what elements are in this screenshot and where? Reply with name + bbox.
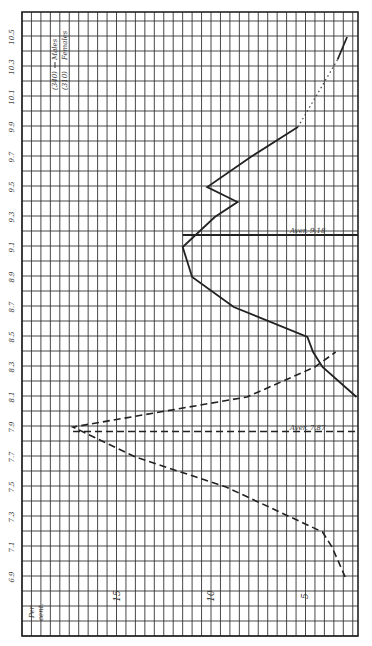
axis-label-per: Per <box>28 605 36 619</box>
legend-females-label: Females <box>61 30 69 61</box>
age-tick-label: 6.9 <box>8 571 16 583</box>
ytick-15: 15 <box>112 590 122 602</box>
females-average-label: Aver. 7.87 <box>289 424 326 432</box>
males-series-line <box>183 127 357 397</box>
ytick-10: 10 <box>206 590 216 602</box>
males-series-dotted-segment <box>298 60 338 128</box>
age-tick-label: 10.3 <box>8 59 16 75</box>
age-tick-label: 8.5 <box>8 331 16 343</box>
age-tick-label: 8.7 <box>8 301 16 313</box>
age-tick-label: 8.3 <box>8 361 16 373</box>
age-tick-label: 8.1 <box>8 391 16 402</box>
age-tick-label: 7.5 <box>8 481 16 493</box>
legend-males-count: (340) <box>51 71 59 90</box>
axis-label-cent: cent. <box>37 603 45 621</box>
age-tick-label: 7.1 <box>8 541 16 552</box>
age-tick-label: 7.7 <box>8 451 16 463</box>
age-tick-label: 8.9 <box>8 271 16 283</box>
age-tick-label: 7.9 <box>8 421 16 433</box>
females-series-line <box>73 352 345 577</box>
age-tick-label: 9.9 <box>8 121 16 133</box>
legend-males-label: Males <box>51 38 59 61</box>
age-tick-label: 9.1 <box>8 241 16 252</box>
age-tick-label: 10.1 <box>8 89 16 105</box>
rotated-line-chart: 6.97.17.37.57.77.98.18.38.58.78.99.19.39… <box>0 0 372 646</box>
age-tick-label: 9.5 <box>8 181 16 193</box>
males-average-label: Aver. 9.18 <box>289 227 326 235</box>
age-tick-labels: 6.97.17.37.57.77.98.18.38.58.78.99.19.39… <box>8 29 16 583</box>
males-series-tail <box>338 37 347 60</box>
chart-frame <box>22 12 358 636</box>
age-tick-label: 9.3 <box>8 211 16 223</box>
ytick-5: 5 <box>300 593 310 599</box>
age-tick-label: 9.7 <box>8 151 16 163</box>
age-tick-label: 7.3 <box>8 511 16 523</box>
graph-paper-grid <box>22 12 358 636</box>
age-tick-label: 10.5 <box>8 29 16 45</box>
legend-females-count: (310) <box>61 71 69 90</box>
